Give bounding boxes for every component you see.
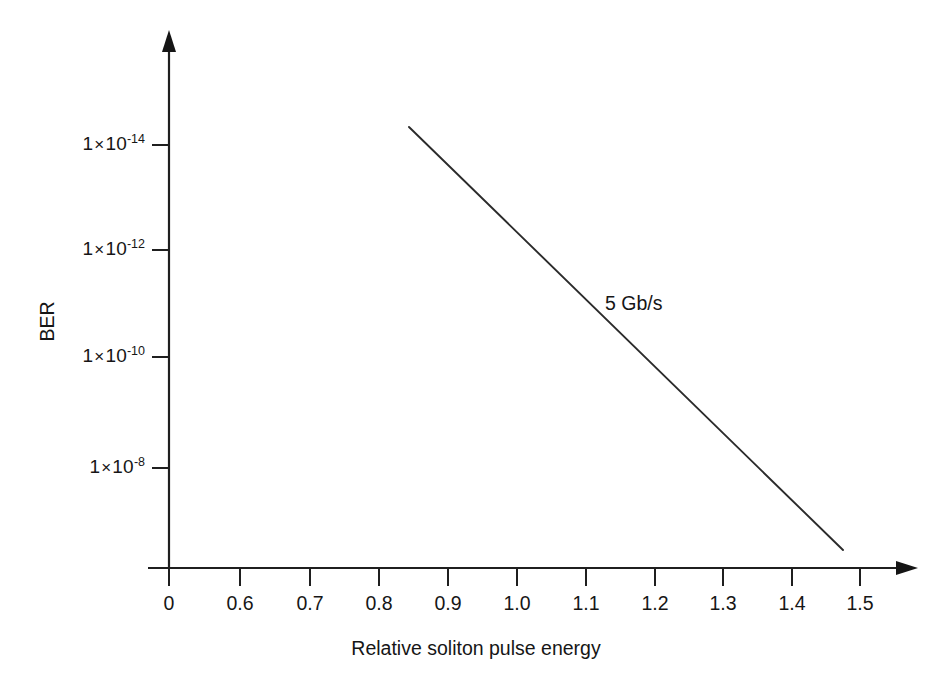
y-axis-arrowhead-icon <box>162 30 176 52</box>
series-annotation-5gbs: 5 Gb/s <box>605 292 662 315</box>
y-tick-label-1e-14: 1×10-14 <box>45 133 145 155</box>
x-tick-label-1-1: 1.1 <box>556 592 616 615</box>
x-tick-label-0-7: 0.7 <box>280 592 340 615</box>
y-tick-label-1e-12: 1×10-12 <box>45 238 145 260</box>
x-tick-label-1-4: 1.4 <box>762 592 822 615</box>
x-tick-label-1-2: 1.2 <box>625 592 685 615</box>
x-tick-label-0-9: 0.9 <box>418 592 478 615</box>
chart-figure: 1×10-14 1×10-12 1×10-10 1×10-8 0 0.6 0.7… <box>0 0 952 686</box>
x-tick-label-0: 0 <box>139 592 199 615</box>
y-tick-label-1e-10: 1×10-10 <box>45 345 145 367</box>
x-tick-label-1-5: 1.5 <box>830 592 890 615</box>
x-tick-label-1-0: 1.0 <box>487 592 547 615</box>
x-tick-label-1-3: 1.3 <box>693 592 753 615</box>
series-5gbs-group <box>409 127 843 550</box>
x-axis-group <box>148 561 918 586</box>
y-axis-title: BER <box>36 267 59 377</box>
y-axis-group <box>152 30 176 568</box>
x-tick-label-0-8: 0.8 <box>349 592 409 615</box>
x-axis-title: Relative soliton pulse energy <box>276 637 676 660</box>
y-tick-label-1e-8: 1×10-8 <box>45 456 145 478</box>
x-tick-label-0-6: 0.6 <box>210 592 270 615</box>
x-axis-arrowhead-icon <box>896 561 918 575</box>
series-line-5gbs <box>409 127 843 550</box>
